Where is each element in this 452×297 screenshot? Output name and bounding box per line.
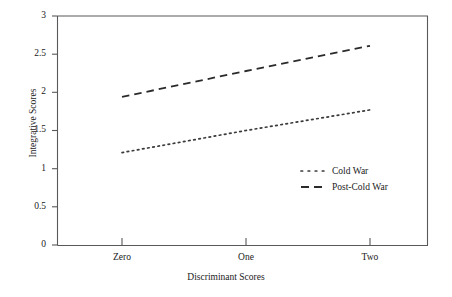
series-line-post-cold-war <box>122 46 370 97</box>
chart-legend: Cold War Post-Cold War <box>300 163 388 195</box>
dashed-line-marker <box>300 181 326 193</box>
y-tick-label-3: 3 <box>18 10 46 20</box>
x-tick-label-zero: Zero <box>92 252 152 262</box>
x-tick-label-two: Two <box>340 252 400 262</box>
legend-item-cold-war: Cold War <box>300 163 388 179</box>
y-tick-marks <box>52 16 58 245</box>
y-tick-label-2.5: 2.5 <box>18 48 46 58</box>
legend-item-post-cold-war: Post-Cold War <box>300 179 388 195</box>
x-tick-label-one: One <box>216 252 276 262</box>
chart-figure: 3 2.5 2 1.5 1 0.5 0 Zero One Two Integra… <box>0 0 452 297</box>
legend-label-cold-war: Cold War <box>332 166 368 176</box>
y-axis-title: Integrative Scores <box>28 68 38 178</box>
x-tick-marks <box>122 238 370 246</box>
dotted-line-marker <box>300 165 326 177</box>
series-line-cold-war <box>122 110 370 153</box>
y-tick-label-0: 0 <box>18 239 46 249</box>
legend-label-post-cold-war: Post-Cold War <box>332 182 388 192</box>
y-tick-label-0.5: 0.5 <box>18 201 46 211</box>
x-axis-title: Discriminant Scores <box>0 272 452 282</box>
